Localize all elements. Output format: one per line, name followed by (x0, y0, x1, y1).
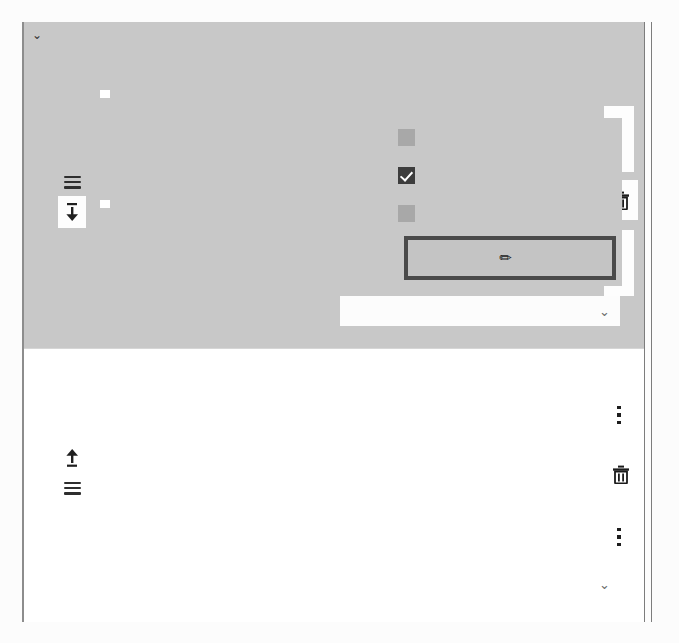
chevron-down-icon[interactable]: ⌄ (599, 577, 610, 592)
move-up-button-bottom[interactable] (58, 444, 86, 472)
move-down-button-top[interactable] (58, 196, 86, 228)
layer-name-row[interactable] (392, 156, 622, 194)
move-up-icon (64, 448, 80, 468)
more-options-button-bottom-layer[interactable] (604, 382, 634, 448)
edit-layer-names-button[interactable]: ✏ (404, 236, 616, 280)
drag-handle-icon-top[interactable] (60, 172, 84, 192)
more-options-icon (617, 528, 620, 546)
layer-checkbox-ground[interactable] (398, 167, 415, 184)
vertical-scrollbar[interactable] (644, 22, 652, 622)
pencil-icon: ✏ (499, 249, 512, 267)
inspector-panel: ⌄ ⌄ (22, 22, 652, 622)
grip-lines (64, 176, 81, 189)
chevron-down-icon[interactable]: ⌄ (599, 304, 610, 319)
physics-material-dropdown-top[interactable]: ⌄ (340, 296, 620, 326)
more-options-button-bottom-mask[interactable] (604, 504, 634, 570)
more-options-icon (617, 406, 620, 424)
layer-checkbox-player[interactable] (398, 129, 415, 146)
delete-element-button-bottom[interactable] (604, 454, 638, 494)
move-down-icon (64, 202, 80, 222)
physics-material-dropdown-bottom[interactable]: ⌄ (340, 570, 620, 598)
chevron-down-icon[interactable]: ⌄ (32, 29, 42, 41)
physics-layers-section-header[interactable]: ⌄ (24, 22, 644, 50)
drag-handle-icon-bottom[interactable] (60, 478, 84, 498)
layer-name-row[interactable] (392, 118, 622, 156)
layer-checkbox-pass-through[interactable] (398, 205, 415, 222)
collision-mask-bitgrid-top[interactable] (100, 200, 110, 208)
collision-layer-bitgrid-bottom[interactable] (100, 366, 110, 374)
layer-name-row[interactable] (392, 194, 622, 232)
grip-lines (64, 482, 81, 495)
trash-icon (612, 465, 630, 484)
collision-layer-bitgrid-top[interactable] (100, 90, 110, 98)
collision-mask-bitgrid-bottom[interactable] (100, 480, 110, 488)
screenshot-root: ⌄ ⌄ (0, 0, 679, 643)
